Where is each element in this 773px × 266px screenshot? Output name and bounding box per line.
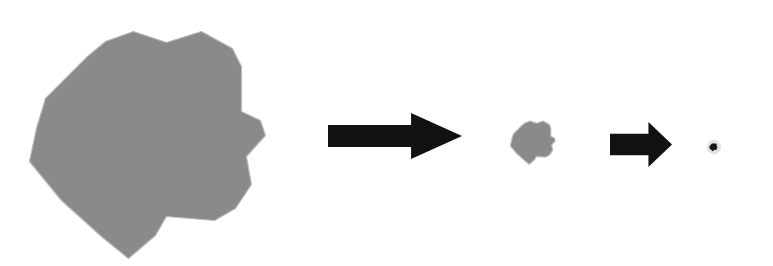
reduction-arrow-2-group (610, 122, 672, 167)
right-arrow-icon (328, 113, 462, 159)
medium-blob-group (510, 121, 555, 164)
diagram-canvas (0, 0, 773, 266)
reduction-arrow-1-group (328, 113, 462, 159)
right-arrow-icon (610, 122, 672, 167)
diagram-svg (0, 0, 773, 266)
large-blob (29, 32, 265, 259)
small-dot-group (707, 140, 721, 154)
large-blob-group (29, 32, 265, 259)
medium-blob (510, 121, 555, 164)
